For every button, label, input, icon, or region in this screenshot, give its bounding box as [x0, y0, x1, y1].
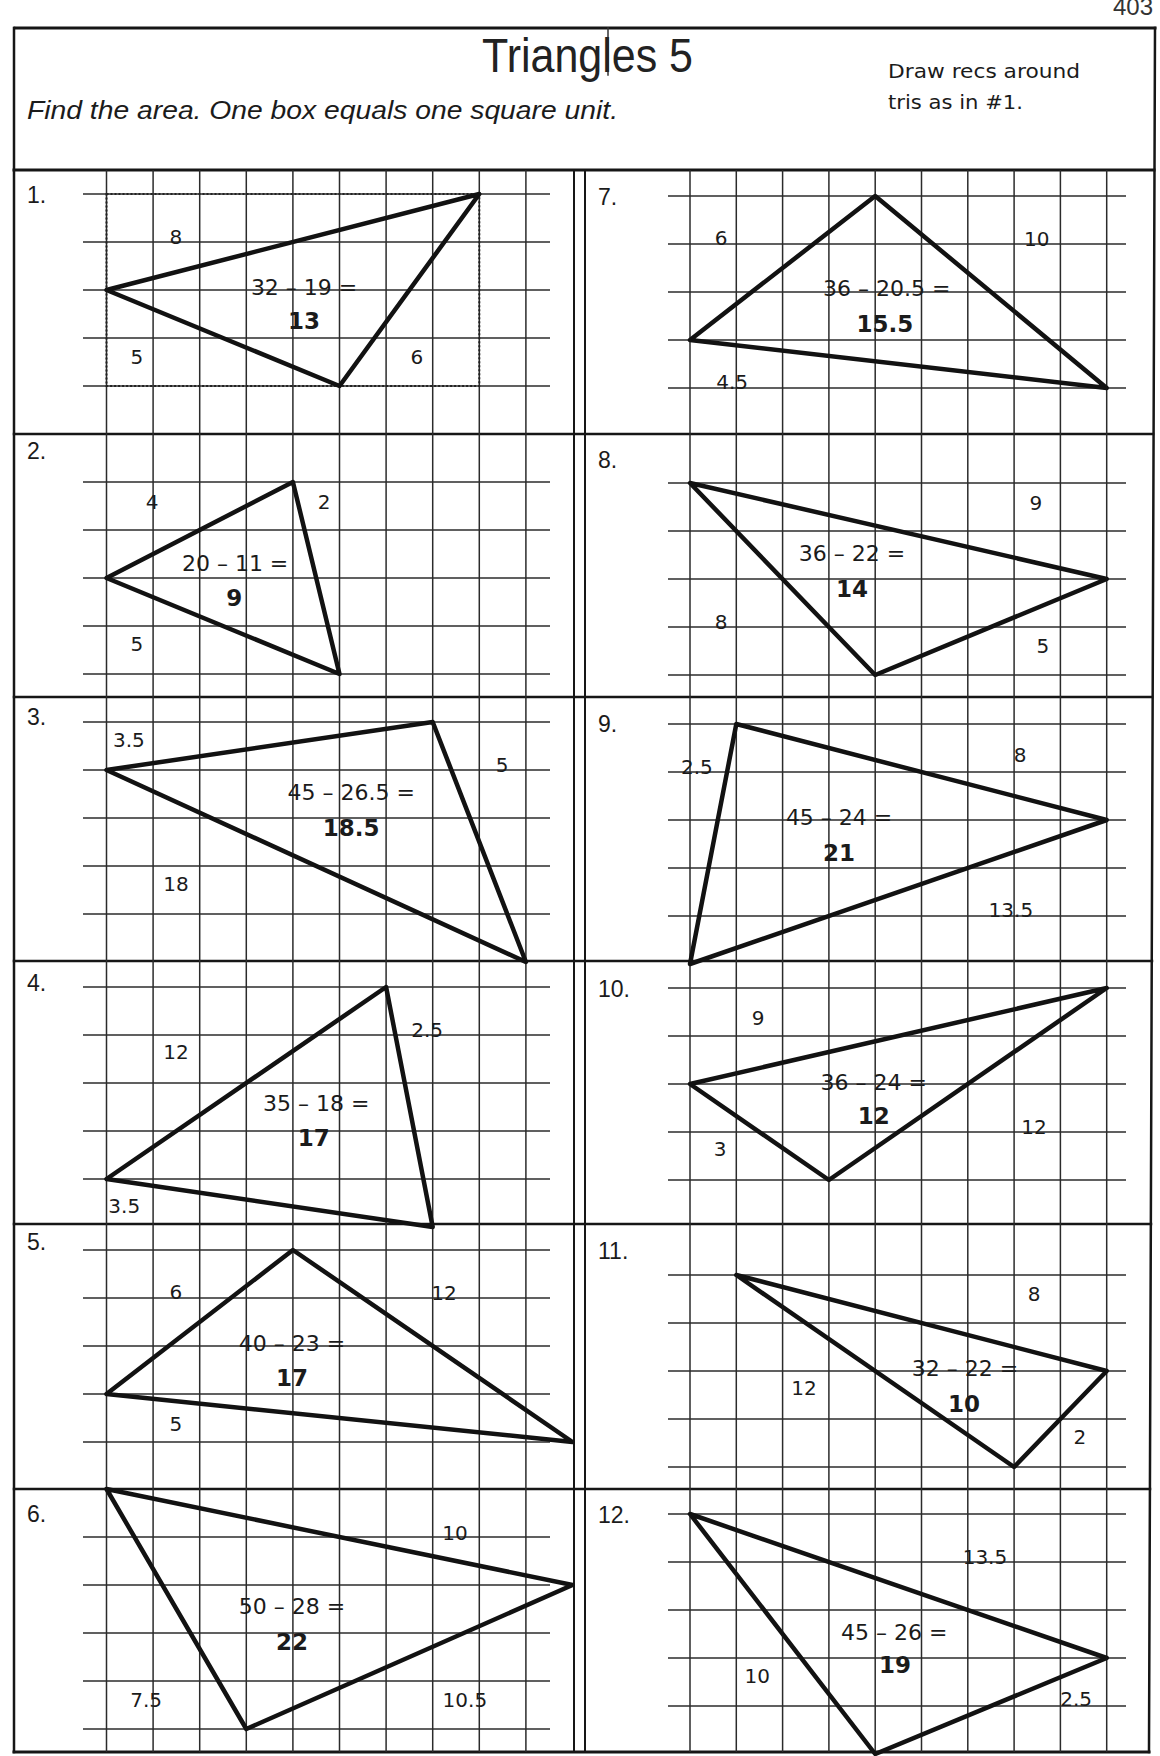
side-area-label: 5	[130, 632, 143, 656]
side-area-label: 7.5	[130, 1688, 162, 1712]
side-area-label: 2	[318, 490, 331, 514]
area-expression: 45 – 24 =	[786, 805, 892, 830]
problem-panel: 5.612540 – 23 =17	[27, 1229, 573, 1442]
side-area-label: 5	[170, 1412, 183, 1436]
area-answer: 19	[879, 1652, 911, 1678]
area-expression: 45 – 26 =	[841, 1620, 947, 1645]
area-expression: 36 – 24 =	[821, 1070, 927, 1095]
problem-panel: 7.6104.536 – 20.5 =15.5	[598, 184, 1126, 394]
problem-panel: 3.3.551845 – 26.5 =18.5	[27, 704, 550, 962]
hint-line-1: Draw recs around	[888, 59, 1080, 83]
side-area-label: 5	[130, 345, 143, 369]
side-area-label: 10	[1024, 227, 1049, 251]
side-area-label: 2.5	[411, 1018, 443, 1042]
side-area-label: 12	[1021, 1115, 1046, 1139]
side-area-label: 4	[146, 490, 159, 514]
problem-number: 4.	[27, 970, 46, 996]
area-answer: 12	[858, 1103, 890, 1129]
area-expression: 36 – 22 =	[799, 541, 905, 566]
side-area-label: 4.5	[716, 370, 748, 394]
triangle	[690, 724, 1107, 964]
problem-panel: 8.98536 – 22 =14	[598, 447, 1126, 675]
problem-number: 12.	[598, 1502, 630, 1528]
side-area-label: 13.5	[989, 898, 1034, 922]
side-area-label: 13.5	[963, 1545, 1008, 1569]
side-area-label: 8	[715, 610, 728, 634]
area-answer: 22	[276, 1629, 308, 1655]
problem-panel: 12.13.5102.545 – 26 =19	[598, 1502, 1126, 1754]
worksheet-header: Triangles 5 Find the area. One box equal…	[27, 29, 1080, 124]
problem-number: 2.	[27, 438, 46, 464]
problem-panel: 4.122.53.535 – 18 =17	[27, 970, 550, 1227]
side-area-label: 10.5	[443, 1688, 488, 1712]
side-area-label: 5	[496, 753, 509, 777]
side-area-label: 10	[442, 1521, 467, 1545]
area-expression: 32 – 22 =	[912, 1356, 1018, 1381]
area-answer: 14	[836, 576, 868, 602]
area-expression: 32 – 19 =	[251, 275, 357, 300]
area-answer: 18.5	[323, 815, 380, 841]
problem-panel: 11.812232 – 22 =10	[598, 1238, 1126, 1467]
area-expression: 45 – 26.5 =	[287, 780, 414, 805]
side-area-label: 3	[714, 1137, 727, 1161]
area-answer: 15.5	[857, 311, 914, 337]
side-area-label: 6	[170, 1280, 183, 1304]
problem-number: 7.	[598, 184, 617, 210]
side-area-label: 9	[752, 1006, 765, 1030]
triangle	[107, 722, 526, 962]
side-area-label: 2	[1073, 1425, 1086, 1449]
side-area-label: 6	[410, 345, 423, 369]
side-area-label: 9	[1029, 491, 1042, 515]
problem-number: 8.	[598, 447, 617, 473]
worksheet-title: Triangles 5	[482, 29, 693, 82]
side-area-label: 5	[1036, 634, 1049, 658]
side-area-label: 18	[163, 872, 188, 896]
page-number: 403	[1113, 0, 1153, 20]
problem-panel: 9.2.5813.545 – 24 =21	[598, 711, 1126, 964]
problem-panels: 1.85632 – 19 =132.42520 – 11 =93.3.55184…	[27, 182, 1126, 1754]
problem-panel: 6.107.510.550 – 28 =22	[27, 1489, 573, 1729]
problem-number: 3.	[27, 704, 46, 730]
problem-panel: 2.42520 – 11 =9	[27, 438, 550, 674]
area-expression: 35 – 18 =	[263, 1091, 369, 1116]
area-answer: 10	[948, 1391, 980, 1417]
side-area-label: 8	[1014, 743, 1027, 767]
side-area-label: 12	[163, 1040, 188, 1064]
side-area-label: 6	[715, 226, 728, 250]
area-answer: 13	[288, 308, 320, 334]
side-area-label: 10	[744, 1664, 769, 1688]
area-answer: 17	[276, 1365, 308, 1391]
worksheet-page: 403 Triangles 5 Find the area. One box e…	[0, 0, 1160, 1756]
hint-line-2: tris as in #1.	[888, 90, 1023, 114]
side-area-label: 2.5	[681, 755, 713, 779]
side-area-label: 8	[1028, 1282, 1041, 1306]
problem-number: 11.	[598, 1238, 628, 1264]
problem-number: 9.	[598, 711, 617, 737]
area-answer: 21	[823, 840, 855, 866]
side-area-label: 8	[170, 225, 183, 249]
problem-number: 5.	[27, 1229, 46, 1255]
side-area-label: 2.5	[1060, 1687, 1092, 1711]
right-border	[1149, 28, 1155, 1752]
problem-number: 6.	[27, 1501, 46, 1527]
area-expression: 20 – 11 =	[182, 551, 288, 576]
side-area-label: 12	[431, 1281, 456, 1305]
area-expression: 36 – 20.5 =	[823, 276, 950, 301]
instructions: Find the area. One box equals one square…	[27, 96, 618, 124]
problem-number: 1.	[27, 182, 46, 208]
problem-number: 10.	[598, 976, 630, 1002]
area-answer: 17	[298, 1125, 330, 1151]
side-area-label: 3.5	[108, 1194, 140, 1218]
area-expression: 50 – 28 =	[239, 1594, 345, 1619]
area-expression: 40 – 23 =	[239, 1331, 345, 1356]
side-area-label: 3.5	[113, 728, 145, 752]
problem-panel: 10.931236 – 24 =12	[598, 976, 1126, 1180]
problem-panel: 1.85632 – 19 =13	[27, 182, 550, 386]
side-area-label: 12	[791, 1376, 816, 1400]
area-answer: 9	[226, 585, 242, 611]
